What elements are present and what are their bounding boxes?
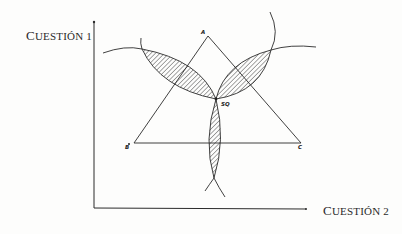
win-set-right (216, 50, 271, 99)
indifference-curve-tail-1 (205, 178, 214, 191)
spatial-voting-diagram: CUESTIÓN 1 CUESTIÓN 2 A B C SQ (0, 0, 402, 234)
indifference-curves (103, 12, 316, 197)
y-axis-label-rest: UESTIÓN 1 (35, 30, 92, 42)
point-label-b: B (125, 144, 129, 150)
points (128, 98, 217, 145)
win-sets (142, 49, 271, 178)
y-axis-label-initial: C (26, 28, 35, 43)
point-label-sq: SQ (221, 101, 230, 107)
indifference-curve-c-top (270, 12, 275, 50)
indifference-curve-a-left (141, 38, 142, 49)
x-axis (94, 208, 306, 209)
indifference-curve-a-right (271, 46, 316, 50)
x-axis-label-initial: C (323, 203, 332, 218)
indifference-curve-tail-2 (214, 178, 225, 197)
x-axis-arrow-icon (305, 208, 307, 210)
point-label-a: A (201, 29, 205, 35)
point-label-c: C (298, 144, 302, 150)
win-set-left (142, 49, 216, 99)
y-axis-label: CUESTIÓN 1 (26, 28, 92, 44)
x-axis-label-rest: UESTIÓN 2 (332, 205, 389, 217)
indifference-curve-b (103, 48, 142, 53)
win-set-bottom (209, 99, 221, 178)
x-axis-label: CUESTIÓN 2 (323, 203, 389, 219)
y-axis-arrow-icon (93, 21, 95, 23)
sq-point (215, 98, 218, 101)
